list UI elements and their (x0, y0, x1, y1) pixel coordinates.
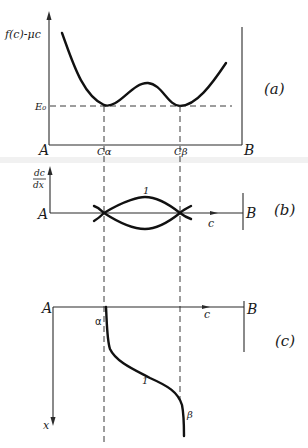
panel-a-free-energy-curve (62, 33, 226, 106)
panel-a-y-label: f(c)-μc (4, 28, 41, 41)
panel-b-x-arrow-icon (210, 211, 218, 215)
panel-a-c-beta-label: Cβ (174, 146, 188, 157)
panel-b-y-label-den: dx (33, 180, 44, 190)
panel-b-curve-label: 1 (143, 185, 149, 196)
panel-b-b-label: B (245, 205, 256, 221)
phase-separation-diagram: f(c)-μc E₀ A Cα Cβ B (a) dc dx A 1 c B (… (0, 0, 308, 448)
panel-b-c-label: c (208, 217, 214, 230)
panel-a-b-label: B (243, 142, 254, 158)
panel-b: dc dx A 1 c B (b) (33, 166, 295, 230)
panel-c-concentration-profile (106, 307, 184, 436)
panel-c-a-label: A (40, 300, 52, 316)
panel-a-y-arrow-icon (47, 11, 52, 20)
panel-b-y-arrow-icon (48, 166, 53, 175)
panel-c-curve-label: 1 (142, 375, 148, 386)
panel-a-tag: (a) (264, 80, 285, 98)
panel-c-c-label: c (204, 308, 210, 321)
panel-b-tag: (b) (274, 201, 295, 219)
panel-c-x-label: x (43, 419, 50, 432)
panel-a: f(c)-μc E₀ A Cα Cβ B (a) (4, 11, 285, 158)
panel-c-down-arrow-icon (51, 417, 56, 426)
panel-b-a-label: A (36, 206, 48, 222)
panel-b-y-label-num: dc (34, 168, 45, 178)
panel-c-beta-label: β (186, 409, 193, 420)
panel-c-b-label: B (246, 301, 257, 317)
panel-a-e0-label: E₀ (34, 101, 46, 112)
panel-c: A α 1 β c B (c) x (40, 300, 295, 436)
panel-c-alpha-label: α (95, 316, 102, 327)
panel-c-tag: (c) (275, 332, 295, 350)
panel-a-a-label: A (37, 142, 49, 158)
